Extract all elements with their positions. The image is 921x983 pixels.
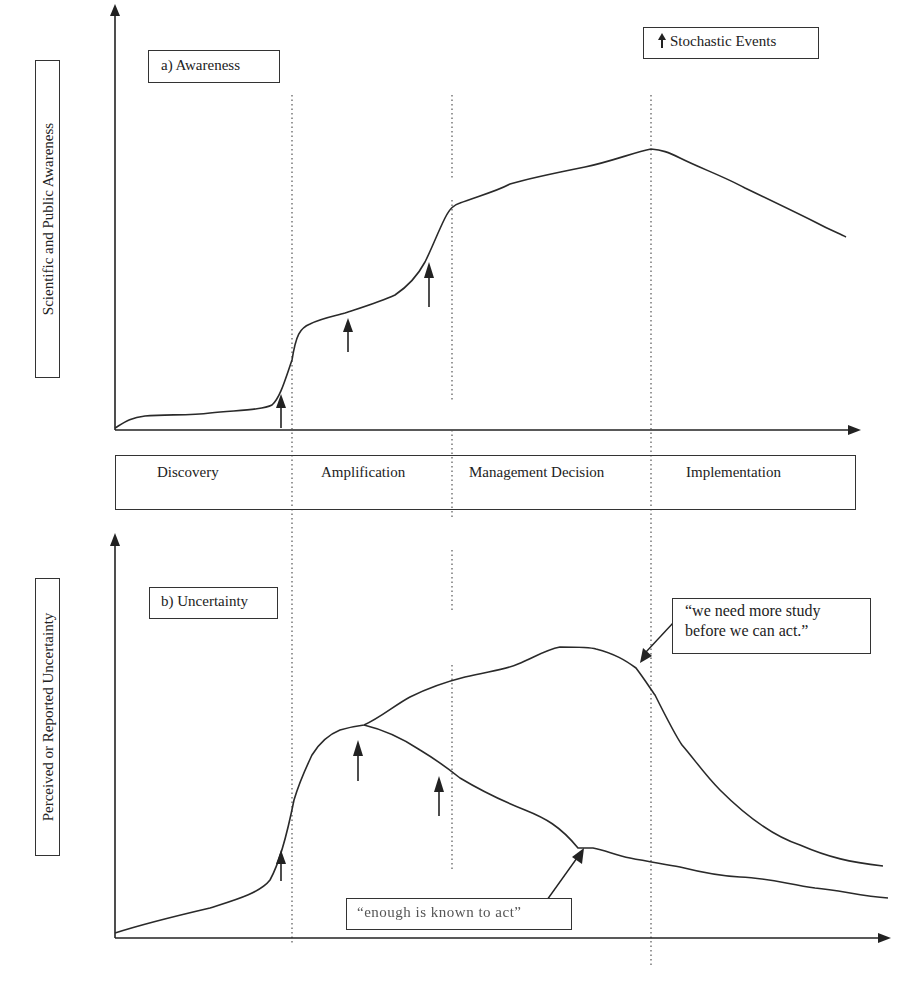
callout-pointers [547,623,673,900]
panel-b-y-axis-arrowhead-icon [110,533,120,546]
panel-b-title: b) Uncertainty [161,593,248,609]
panel-b-y-axis-label: Perceived or Reported Uncertainty [39,613,56,822]
phase-amplification: Amplification [321,464,405,481]
up-arrow-icon [276,394,286,408]
panel-a-y-axis-label-box: Scientific and Public Awareness [35,60,60,378]
uncertainty-curve-enough-known [364,725,888,898]
panel-a-title-box: a) Awareness [148,50,280,83]
panel-b-stochastic-events [276,740,444,881]
panel-a-y-axis-label: Scientific and Public Awareness [39,123,56,315]
phase-discovery: Discovery [157,464,219,481]
legend-label: Stochastic Events [670,33,776,49]
callout-upper-line1: “we need more study [685,601,870,621]
up-arrow-icon [343,318,353,332]
up-arrow-icon [276,850,286,864]
callout-upper-line2: before we can act.” [685,621,870,641]
panel-a-stochastic-events [276,262,434,428]
awareness-curve [115,149,846,428]
panel-b-x-axis-arrowhead-icon [878,933,891,943]
callout-enough-known: “enough is known to act” [346,898,572,930]
phase-implementation: Implementation [686,464,781,481]
panel-b-y-axis-label-box: Perceived or Reported Uncertainty [35,578,60,856]
up-arrow-icon [658,33,666,47]
up-arrow-icon [424,262,434,278]
phase-management-decision: Management Decision [469,464,604,481]
panel-a-title: a) Awareness [161,57,240,73]
panel-a-y-axis-arrowhead-icon [110,4,120,16]
legend-box: Stochastic Events [643,27,819,59]
up-arrow-icon [353,740,363,756]
panel-a-x-axis-arrowhead-icon [848,425,861,435]
uncertainty-curve-need-more-study [115,647,883,933]
up-arrow-icon [434,776,444,792]
callout-lower-text: “enough is known to act” [357,904,521,920]
callout-need-more-study: “we need more study before we can act.” [672,598,871,654]
panel-b-title-box: b) Uncertainty [149,587,278,619]
phase-dividers [292,95,651,965]
pointer-arrowhead-icon [640,648,652,663]
